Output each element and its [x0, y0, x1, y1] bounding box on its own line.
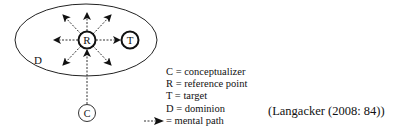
dashed-arrow-icon: [144, 116, 166, 126]
citation: (Langacker (2008: 84)): [268, 104, 385, 119]
legend-item: C = conceptualizer: [166, 66, 247, 78]
legend-item: D = dominion: [166, 103, 247, 115]
legend-item: T = target: [166, 90, 247, 102]
mental-path-arrows: [54, 13, 120, 104]
arrow-up-right: [93, 15, 111, 34]
dominion-label: D: [34, 54, 42, 66]
reference-point-label: R: [83, 34, 91, 46]
arrow-down-left: [63, 46, 81, 65]
conceptualizer-label: C: [84, 108, 91, 119]
legend-item: R = reference point: [166, 78, 247, 90]
arrow-up-left: [63, 15, 81, 34]
target-label: T: [127, 34, 134, 46]
arrow-down-right: [93, 46, 111, 65]
legend: C = conceptualizer R = reference point T…: [166, 66, 247, 127]
legend-item: = mental path: [166, 115, 247, 127]
